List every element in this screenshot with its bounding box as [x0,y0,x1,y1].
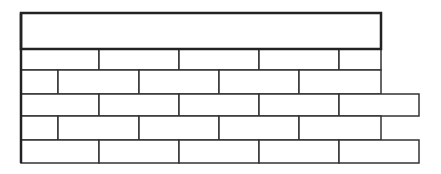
brick [259,49,339,70]
brick [58,116,139,140]
brick [99,94,179,116]
brick [21,70,58,94]
brick [139,70,219,94]
course-3 [21,94,419,116]
brick [139,116,219,140]
brick [299,116,381,140]
brick [219,116,299,140]
brick [179,94,259,116]
course-5 [21,140,419,163]
brick [21,116,58,140]
brick [259,94,339,116]
brick [58,70,139,94]
brick [299,70,381,94]
brick [179,49,259,70]
brick [219,70,299,94]
brick [179,140,259,163]
brick [99,49,179,70]
brick [339,49,381,70]
course-2 [21,70,381,94]
brick [99,140,179,163]
brick-wall-diagram [0,0,441,174]
top-beam [21,13,381,49]
course-4 [21,116,381,140]
brick [339,140,419,163]
brick [259,140,339,163]
course-1 [21,49,381,70]
brick [21,49,99,70]
brick [21,94,99,116]
brick [339,94,419,116]
brick-courses [21,49,419,163]
brick [21,140,99,163]
